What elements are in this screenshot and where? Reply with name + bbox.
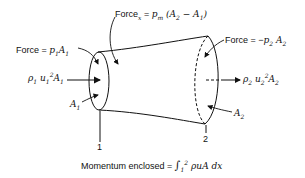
force-1-label: Force = p1A1 — [16, 46, 69, 55]
momentum-out-label: ρ2 u22A2 — [243, 75, 279, 84]
force-1-arrow — [78, 48, 98, 64]
section-1-ellipse — [89, 52, 109, 110]
area-2-arrow — [208, 106, 232, 112]
force-x-label: Forcex = pm (A2 − A1) — [115, 10, 207, 19]
area-2-label: A2 — [234, 109, 244, 118]
force-x-arrow — [110, 17, 118, 64]
section-2-label: 2 — [203, 135, 208, 144]
section-1-label: 1 — [97, 143, 102, 152]
duct-top-wall — [98, 36, 208, 52]
momentum-enclosed-label: Momentum enclosed = ∫12 ρuA dx — [81, 160, 222, 171]
duct-bottom-wall — [99, 110, 205, 124]
momentum-in-label: ρ1 u12A1 — [28, 74, 64, 83]
control-volume-diagram — [0, 0, 305, 178]
force-2-label: Force = −p2 A2 — [225, 36, 286, 45]
area-1-label: A1 — [70, 100, 80, 109]
